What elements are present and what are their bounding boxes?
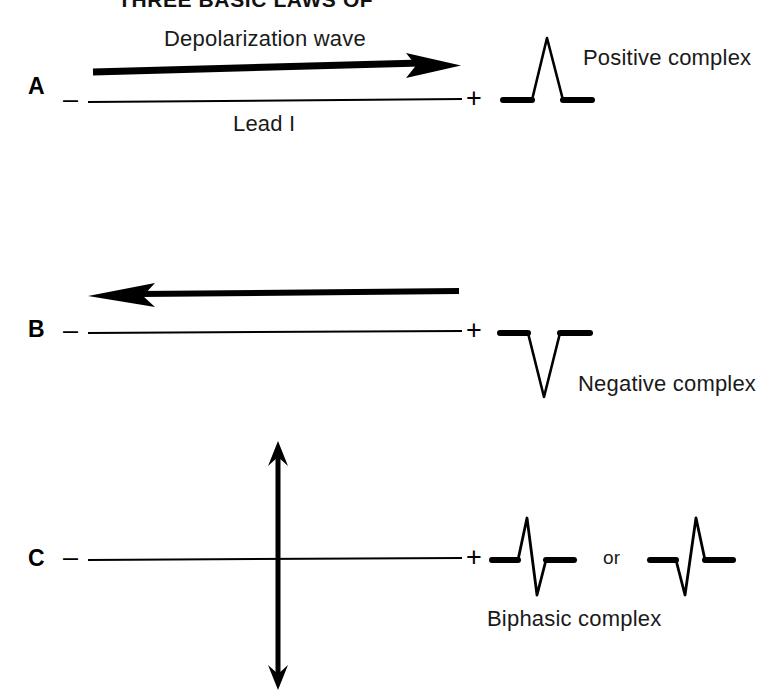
figure-vector-layer xyxy=(0,0,771,699)
panel-b-graphics xyxy=(88,283,590,397)
panel-b-complex-label: Negative complex xyxy=(578,371,756,397)
panel-letter-c: C xyxy=(28,545,45,572)
panel-b-negative-sign: – xyxy=(63,317,78,344)
ecg-three-basic-laws-figure: THREE BASIC LAWS OF xyxy=(0,0,771,699)
panel-b-positive-sign: + xyxy=(466,317,482,344)
panel-a-lead-line xyxy=(88,99,462,102)
panel-letter-b: B xyxy=(28,316,45,343)
panel-c-vertical-double-arrow xyxy=(268,441,288,690)
panel-a-positive-complex-waveform xyxy=(503,38,592,100)
panel-c-negative-sign: – xyxy=(63,544,78,571)
panel-c-conjunction-or: or xyxy=(603,547,620,569)
panel-a-arrow-label: Depolarization wave xyxy=(164,26,366,52)
panel-a-complex-label: Positive complex xyxy=(583,45,751,71)
panel-b-negative-complex-waveform xyxy=(500,333,590,397)
panel-letter-a: A xyxy=(28,73,45,100)
panel-c-biphasic-complex-2 xyxy=(650,518,733,595)
panel-a-negative-sign: – xyxy=(63,86,78,113)
panel-c-complex-label: Biphasic complex xyxy=(487,606,661,632)
panel-b-arrow-left xyxy=(88,283,459,307)
panel-c-graphics xyxy=(88,441,733,690)
panel-b-lead-line xyxy=(88,331,462,333)
panel-a-positive-sign: + xyxy=(466,85,482,112)
panel-c-lead-line xyxy=(88,558,462,560)
panel-a-lead-label: Lead I xyxy=(233,111,295,137)
panel-a-depolarization-arrow xyxy=(93,53,461,78)
panel-c-biphasic-complex-1 xyxy=(492,518,574,595)
panel-c-positive-sign: + xyxy=(466,544,482,571)
